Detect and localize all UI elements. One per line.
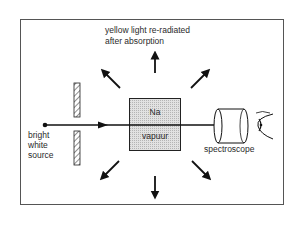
caption-line-2: after absorption [105,36,164,46]
arrow-down-right [192,161,208,177]
arrow-down-left [103,161,119,177]
source-label-line-3: source [28,150,54,160]
spectroscope-label: spectroscope [204,144,255,154]
spectroscope-icon [214,109,248,143]
caption-line-1: yellow light re-radiated [105,25,190,35]
eye-icon [256,112,273,140]
arrow-up-left [104,72,120,88]
slit-lower [74,131,80,165]
source-point [43,123,48,128]
beam-direction-arrow [98,122,108,129]
slit-upper [74,83,80,117]
source-label-line-2: white [27,140,48,150]
source-label-line-1: bright [28,130,50,140]
cell-label-vapour: vapuur [142,131,168,141]
sodium-absorption-diagram: yellow light re-radiated after absorptio… [0,0,291,226]
cell-label-na: Na [150,107,161,117]
arrow-up-right [191,72,207,88]
